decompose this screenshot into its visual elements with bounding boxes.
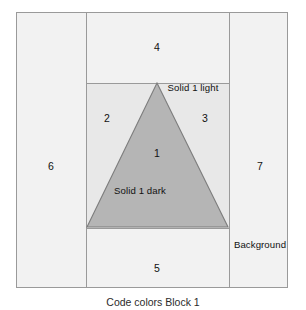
region-label-6: 6: [48, 161, 54, 172]
region-label-1: 1: [154, 148, 160, 159]
region-5-background-bottom: [87, 228, 229, 287]
label-solid-1-dark: Solid 1 dark: [114, 186, 166, 196]
region-label-5: 5: [154, 263, 160, 274]
label-solid-1-light: Solid 1 light: [168, 83, 219, 93]
region-label-4: 4: [154, 42, 160, 53]
region-label-2: 2: [104, 113, 110, 124]
region-6-background-left: [17, 13, 87, 287]
figure-container: 1 2 3 4 5 6 7 Solid 1 light Solid 1 dark…: [0, 0, 306, 310]
region-label-7: 7: [257, 161, 263, 172]
figure-caption: Code colors Block 1: [0, 296, 306, 308]
label-background: Background: [234, 240, 286, 250]
region-label-3: 3: [202, 113, 208, 124]
